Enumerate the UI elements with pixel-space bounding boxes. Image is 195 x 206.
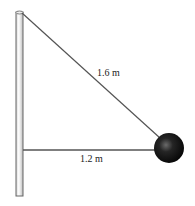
horizontal-rope-length-label: 1.2 m xyxy=(80,153,103,164)
diagonal-rope-length-label: 1.6 m xyxy=(97,67,120,78)
pendulum-diagram: 1.6 m 1.2 m xyxy=(0,0,195,206)
diagram-graphic xyxy=(0,0,195,206)
diagonal-rope xyxy=(22,13,160,138)
ball xyxy=(154,133,184,163)
vertical-pole xyxy=(16,11,23,196)
